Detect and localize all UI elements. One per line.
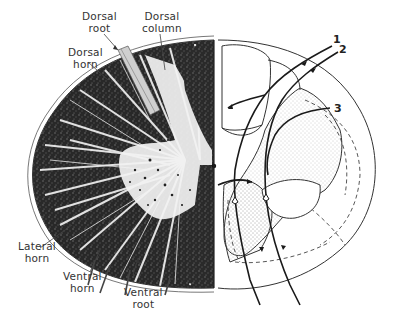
- label-dorsal-column: Dorsal column: [142, 10, 182, 34]
- label-ventral-root: Ventral root: [124, 286, 163, 310]
- schematic-half: [218, 40, 375, 289]
- label-dorsal-horn: Dorsal horn: [68, 46, 103, 70]
- label-dorsal-root: Dorsal root: [82, 10, 117, 34]
- label-lateral-horn: Lateral horn: [18, 240, 56, 264]
- histology-half: [33, 40, 215, 288]
- label-ventral-horn: Ventral horn: [63, 270, 102, 294]
- pathway-number-3: 3: [334, 102, 342, 115]
- pathway-number-2: 2: [339, 43, 347, 56]
